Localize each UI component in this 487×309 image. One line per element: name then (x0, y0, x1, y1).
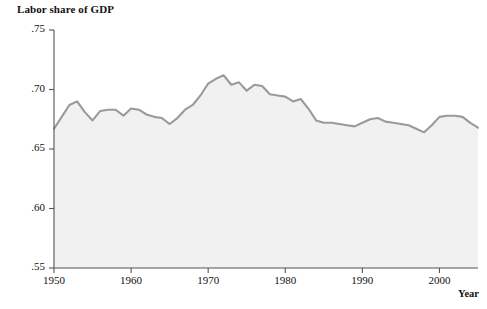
x-tick-label: 1950 (32, 274, 76, 286)
y-tick-label: .75 (13, 22, 45, 34)
y-tick-label: .55 (13, 260, 45, 272)
y-tick-label: .60 (13, 201, 45, 213)
x-tick-label: 2000 (417, 274, 461, 286)
y-tick-label: .65 (13, 141, 45, 153)
x-tick-label: 1960 (109, 274, 153, 286)
plot-area (0, 0, 487, 309)
y-tick-label: .70 (13, 82, 45, 94)
y-axis-ticks (49, 30, 54, 268)
chart-figure: Labor share of GDP .55.60.65.70.75 19501… (0, 0, 487, 309)
x-tick-label: 1990 (340, 274, 384, 286)
x-axis-ticks (54, 268, 439, 273)
area-fill (54, 75, 478, 268)
x-tick-label: 1980 (263, 274, 307, 286)
x-tick-label: 1970 (186, 274, 230, 286)
x-axis-title: Year (458, 288, 479, 299)
